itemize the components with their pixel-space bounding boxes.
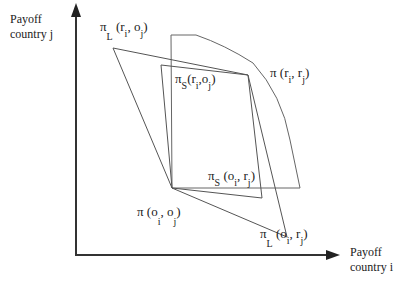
x-axis-arrow-icon bbox=[326, 250, 340, 260]
text: (r bbox=[116, 19, 125, 34]
x-axis-label-line1: Payoff bbox=[350, 245, 393, 260]
text: (r bbox=[187, 71, 196, 86]
text: ) bbox=[211, 71, 215, 86]
subscript: S bbox=[215, 177, 221, 188]
label-pi-o-o: π (oi, oj) bbox=[137, 205, 181, 218]
subscript: i bbox=[287, 235, 290, 246]
payoff-diagram bbox=[0, 0, 398, 289]
y-axis-arrow-icon bbox=[71, 3, 81, 17]
subscript: j bbox=[248, 177, 251, 188]
pi-symbol: π bbox=[100, 19, 107, 34]
y-axis-label-line1: Payoff bbox=[10, 12, 53, 27]
text: , o bbox=[160, 204, 173, 219]
subscript: j bbox=[173, 216, 176, 227]
subscript: j bbox=[140, 28, 143, 39]
text: , r bbox=[291, 65, 302, 80]
text: ) bbox=[143, 19, 147, 34]
text: , r bbox=[290, 226, 301, 241]
text: (o bbox=[223, 168, 234, 183]
label-pi-r-r: π (ri, rj) bbox=[270, 66, 309, 79]
text: , r bbox=[237, 168, 248, 183]
x-axis-label: Payoff country i bbox=[350, 245, 393, 275]
label-pi-S-o-r: πS (oi, rj) bbox=[208, 169, 255, 182]
subscript: L bbox=[107, 31, 113, 42]
frontier-r-r bbox=[171, 35, 300, 188]
subscript: S bbox=[182, 80, 188, 91]
label-pi-L-o-r: πL (oi, rj) bbox=[260, 227, 308, 240]
text: (r bbox=[280, 65, 289, 80]
text: (o bbox=[276, 226, 287, 241]
subscript: i bbox=[234, 177, 237, 188]
text: (o bbox=[147, 204, 158, 219]
y-axis-label: Payoff country j bbox=[10, 12, 53, 42]
text: ) bbox=[305, 65, 309, 80]
x-axis-label-line2: country i bbox=[350, 260, 393, 275]
pi-symbol: π bbox=[260, 226, 267, 241]
subscript: i bbox=[125, 28, 128, 39]
pi-symbol: π bbox=[137, 204, 144, 219]
label-pi-S-r-o: πS(ri,oj) bbox=[175, 72, 215, 85]
subscript: j bbox=[302, 74, 305, 85]
text: ) bbox=[303, 226, 307, 241]
subscript: i bbox=[196, 80, 199, 91]
text: ) bbox=[176, 204, 180, 219]
subscript: i bbox=[289, 74, 292, 85]
subscript: j bbox=[208, 80, 211, 91]
text: ) bbox=[251, 168, 255, 183]
pi-symbol: π bbox=[270, 65, 277, 80]
subscript: j bbox=[300, 235, 303, 246]
label-pi-L-r-o: πL (ri, oj) bbox=[100, 20, 148, 33]
y-axis-label-line2: country j bbox=[10, 27, 53, 42]
subscript: L bbox=[267, 238, 273, 249]
pi-symbol: π bbox=[208, 168, 215, 183]
text: ,o bbox=[199, 71, 209, 86]
pi-symbol: π bbox=[175, 71, 182, 86]
text: , o bbox=[127, 19, 140, 34]
